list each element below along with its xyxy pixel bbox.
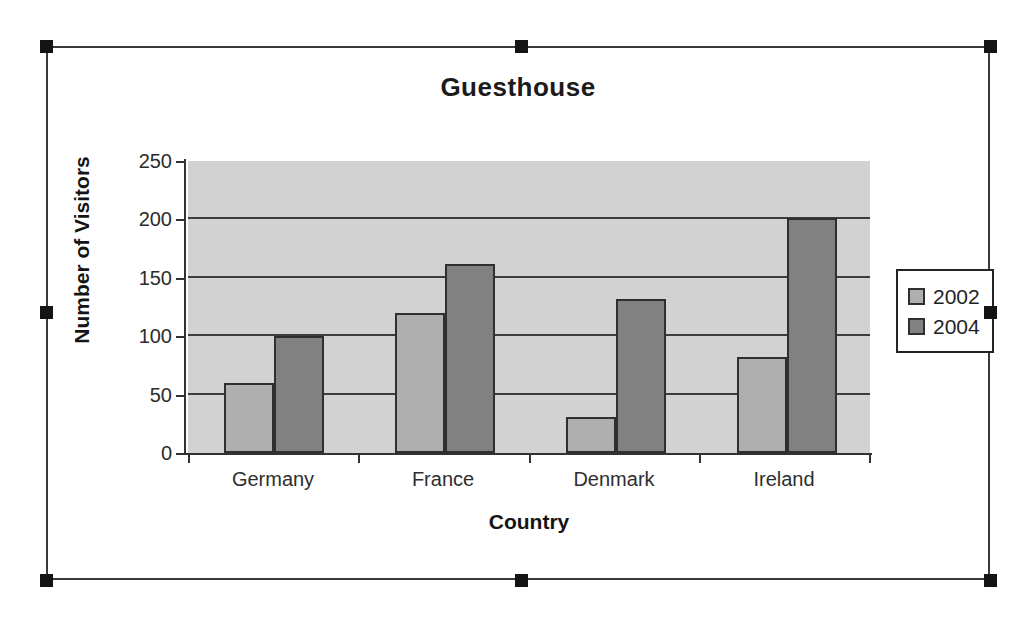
- x-category-label-ireland: Ireland: [699, 468, 869, 491]
- legend-swatch-icon-2004: [908, 318, 925, 335]
- selection-handle-top-right[interactable]: [984, 40, 997, 53]
- legend-label-2002: 2002: [933, 286, 980, 307]
- bar-ireland-2004[interactable]: [787, 218, 837, 453]
- chart-title: Guesthouse: [48, 72, 988, 103]
- y-tick-label: 0: [114, 442, 172, 465]
- plot-area: [188, 161, 870, 453]
- selection-handle-middle-right[interactable]: [984, 306, 997, 319]
- y-axis-title: Number of Visitors: [70, 150, 94, 350]
- x-category-label-germany: Germany: [188, 468, 358, 491]
- bar-germany-2002[interactable]: [224, 383, 274, 453]
- selection-handle-top-left[interactable]: [40, 40, 53, 53]
- y-axis-line: [184, 159, 186, 455]
- selection-handle-top-center[interactable]: [515, 40, 528, 53]
- y-tick-label: 50: [114, 384, 172, 407]
- y-tick-label: 100: [114, 325, 172, 348]
- gridline-150: [188, 276, 870, 278]
- chart-object[interactable]: Guesthouse Number of Visitors 250 200 15…: [46, 46, 990, 580]
- selection-handle-bottom-right[interactable]: [984, 574, 997, 587]
- gridline-200: [188, 217, 870, 219]
- bar-denmark-2004[interactable]: [616, 299, 666, 453]
- bar-france-2002[interactable]: [395, 313, 445, 453]
- selection-handle-bottom-center[interactable]: [515, 574, 528, 587]
- legend-item-2004[interactable]: 2004: [908, 311, 980, 341]
- legend-swatch-icon-2002: [908, 288, 925, 305]
- legend-label-2004: 2004: [933, 316, 980, 337]
- bar-ireland-2002[interactable]: [737, 357, 787, 453]
- bar-france-2004[interactable]: [445, 264, 495, 453]
- x-axis-title: Country: [188, 510, 870, 534]
- bar-denmark-2002[interactable]: [566, 417, 616, 453]
- x-axis-line: [184, 453, 872, 455]
- y-tick-label: 200: [114, 208, 172, 231]
- x-category-label-denmark: Denmark: [529, 468, 699, 491]
- y-tick-label: 250: [114, 150, 172, 173]
- chart-legend[interactable]: 2002 2004: [896, 269, 994, 353]
- legend-item-2002[interactable]: 2002: [908, 281, 980, 311]
- x-category-label-france: France: [358, 468, 528, 491]
- selection-handle-bottom-left[interactable]: [40, 574, 53, 587]
- bar-germany-2004[interactable]: [274, 336, 324, 453]
- selection-handle-middle-left[interactable]: [40, 306, 53, 319]
- y-axis-tick-labels: 250 200 150 100 50 0: [110, 161, 172, 453]
- x-axis-category-labels: Germany France Denmark Ireland: [188, 468, 870, 498]
- y-tick-label: 150: [114, 267, 172, 290]
